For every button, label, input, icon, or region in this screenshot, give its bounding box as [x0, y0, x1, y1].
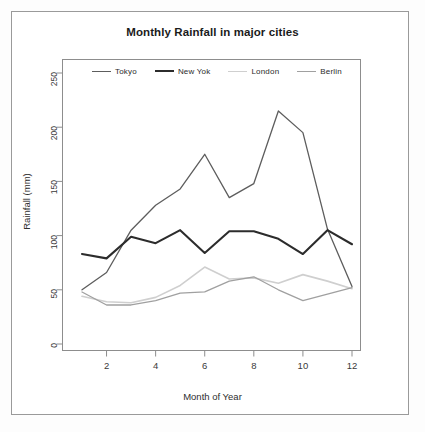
legend-label: Berlin [320, 67, 342, 76]
legend-line-swatch [155, 70, 174, 72]
y-tick-label: 200 [49, 126, 59, 156]
y-tick-label: 0 [49, 343, 59, 373]
series-line-new-yok [82, 230, 352, 258]
series-line-tokyo [82, 111, 352, 290]
x-tick-label: 6 [191, 360, 219, 371]
legend-label: Tokyo [115, 67, 137, 76]
x-tick-label: 12 [338, 360, 366, 371]
x-axis-title: Month of Year [0, 391, 425, 402]
series-line-berlin [82, 277, 352, 305]
legend-item-tokyo: Tokyo [92, 67, 137, 76]
x-tick-label: 8 [240, 360, 268, 371]
legend-label: London [251, 67, 279, 76]
y-tick-label: 100 [49, 235, 59, 265]
series-line-london [82, 267, 352, 303]
legend-item-berlin: Berlin [297, 67, 342, 76]
y-tick-label: 150 [49, 180, 59, 210]
y-tick-label: 250 [49, 72, 59, 102]
x-tick-label: 4 [142, 360, 170, 371]
chart-legend: TokyoNew YokLondonBerlin [92, 64, 342, 78]
x-tick-label: 10 [289, 360, 317, 371]
legend-label: New Yok [178, 67, 211, 76]
legend-line-swatch [297, 71, 316, 72]
legend-line-swatch [228, 71, 247, 72]
axis-tick-marks [57, 73, 353, 357]
chart-page: Monthly Rainfall in major cities 0501001… [0, 0, 425, 432]
legend-item-new-yok: New Yok [155, 67, 211, 76]
y-axis-title: Rainfall (mm) [21, 147, 32, 257]
legend-line-swatch [92, 71, 111, 72]
series-lines-group [82, 111, 352, 305]
x-tick-label: 2 [93, 360, 121, 371]
y-tick-label: 50 [49, 289, 59, 319]
legend-item-london: London [228, 67, 279, 76]
